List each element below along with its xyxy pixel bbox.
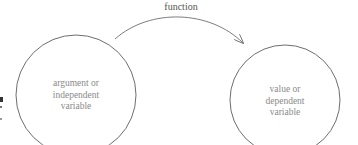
value-line-3: variable [245, 107, 325, 119]
argument-text: argument or independent variable [36, 78, 116, 113]
margin-marks [0, 97, 3, 120]
argument-line-1: argument or [36, 78, 116, 90]
diagram-canvas [0, 0, 358, 145]
value-line-2: dependent [245, 96, 325, 108]
value-line-1: value or [245, 84, 325, 96]
argument-line-3: variable [36, 101, 116, 113]
value-text: value or dependent variable [245, 84, 325, 119]
function-label: function [155, 1, 207, 12]
function-arrow [115, 17, 243, 43]
argument-line-2: independent [36, 90, 116, 102]
function-diagram: function argument or independent variabl… [0, 0, 358, 145]
